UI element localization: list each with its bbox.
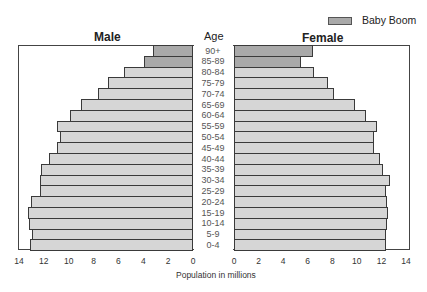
x-tick-female: 4 [273, 256, 293, 266]
x-tick-male: 8 [84, 256, 104, 266]
legend-label: Baby Boom [362, 14, 416, 26]
x-tick-female: 12 [371, 256, 391, 266]
x-tick-male: 0 [183, 256, 203, 266]
age-title: Age [204, 30, 224, 42]
age-label: 80-84 [193, 67, 233, 77]
age-label: 5-9 [193, 229, 233, 239]
x-tick-female: 14 [396, 256, 416, 266]
age-label: 75-79 [193, 78, 233, 88]
x-tick-male: 12 [34, 256, 54, 266]
age-label: 15-19 [193, 208, 233, 218]
age-label: 0-4 [193, 240, 233, 250]
x-tick-male: 14 [9, 256, 29, 266]
age-label: 35-39 [193, 164, 233, 174]
female-title: Female [302, 31, 343, 45]
age-label: 70-74 [193, 89, 233, 99]
x-tick-male: 10 [59, 256, 79, 266]
age-label: 90+ [193, 46, 233, 56]
x-tick-female: 10 [347, 256, 367, 266]
x-tick-female: 6 [298, 256, 318, 266]
age-label: 30-34 [193, 175, 233, 185]
age-label: 60-64 [193, 110, 233, 120]
male-title: Male [94, 30, 121, 44]
age-label: 45-49 [193, 143, 233, 153]
age-label: 40-44 [193, 154, 233, 164]
x-axis-label: Population in millions [176, 270, 256, 280]
x-tick-female: 2 [249, 256, 269, 266]
male-bar [30, 239, 193, 251]
age-label: 20-24 [193, 197, 233, 207]
age-label: 65-69 [193, 100, 233, 110]
legend-swatch-baby-boom [328, 17, 352, 25]
age-label: 85-89 [193, 56, 233, 66]
x-tick-male: 6 [108, 256, 128, 266]
legend: Baby Boom [328, 14, 427, 28]
x-tick-female: 0 [224, 256, 244, 266]
x-tick-male: 4 [133, 256, 153, 266]
female-bar [234, 239, 386, 251]
age-label: 10-14 [193, 218, 233, 228]
age-label: 55-59 [193, 121, 233, 131]
age-label: 50-54 [193, 132, 233, 142]
x-tick-male: 2 [158, 256, 178, 266]
x-tick-female: 8 [322, 256, 342, 266]
age-label: 25-29 [193, 186, 233, 196]
